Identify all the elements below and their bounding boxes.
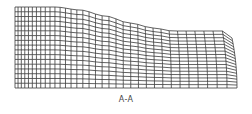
mesh-lines (15, 7, 237, 88)
section-label: A-A (0, 95, 252, 104)
